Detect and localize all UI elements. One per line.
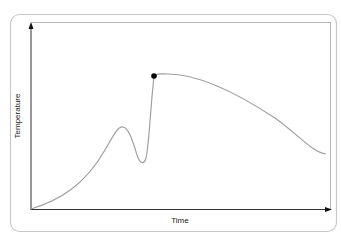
outer-frame [11, 15, 337, 232]
temperature-time-diagram: Time Temperature [0, 0, 341, 237]
y-axis-label: Temperature [13, 93, 22, 138]
maximum-point-marker [151, 73, 157, 79]
x-axis-label: Time [171, 216, 189, 225]
